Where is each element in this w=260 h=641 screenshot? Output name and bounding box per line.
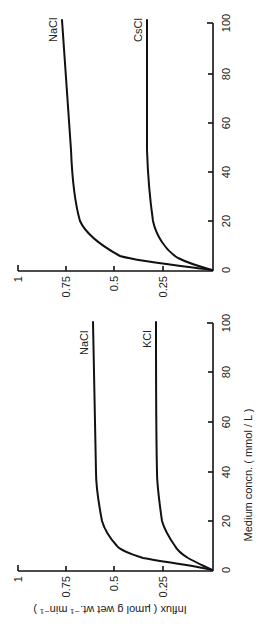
conc-ticks-top bbox=[207, 23, 213, 221]
curve-nacl-top bbox=[62, 20, 212, 270]
svg-text:20: 20 bbox=[220, 515, 232, 527]
svg-text:0.75: 0.75 bbox=[60, 576, 72, 597]
svg-text:20: 20 bbox=[220, 215, 232, 227]
influx-tick-labels-bottom: 1 0.75 0.5 0.25 bbox=[12, 576, 169, 597]
svg-text:0.5: 0.5 bbox=[108, 276, 120, 291]
svg-text:0: 0 bbox=[220, 267, 232, 273]
conc-ticks-bottom bbox=[207, 323, 213, 521]
svg-text:0.25: 0.25 bbox=[157, 276, 169, 297]
influx-ticks-top bbox=[18, 265, 163, 271]
svg-text:100: 100 bbox=[220, 14, 232, 32]
svg-text:1: 1 bbox=[12, 276, 24, 282]
influx-axis-title: Influx ( µmol g wet wt.⁻¹ min⁻¹ ) bbox=[33, 604, 186, 616]
conc-tick-labels-top: 0 20 40 60 80 100 bbox=[220, 14, 232, 273]
conc-axis-title: Medium concn. ( mmol / L ) bbox=[242, 409, 254, 542]
svg-text:80: 80 bbox=[220, 68, 232, 80]
svg-text:0.75: 0.75 bbox=[60, 276, 72, 297]
label-cscl-top: CsCl bbox=[132, 18, 144, 42]
svg-text:60: 60 bbox=[220, 416, 232, 428]
influx-ticks-bottom bbox=[18, 565, 163, 571]
label-kcl-bottom: KCl bbox=[141, 330, 153, 348]
svg-text:40: 40 bbox=[220, 166, 232, 178]
rotated-figure: 1 0.75 0.5 0.25 0 20 40 60 80 100 NaCl C… bbox=[0, 0, 260, 641]
curve-nacl-bottom bbox=[93, 322, 212, 570]
conc-tick-labels-bottom: 0 20 40 60 80 100 bbox=[220, 314, 232, 573]
influx-tick-labels-top: 1 0.75 0.5 0.25 bbox=[12, 276, 169, 297]
curve-cscl-top bbox=[147, 20, 212, 270]
label-nacl-bottom: NaCl bbox=[78, 331, 90, 355]
svg-text:0.25: 0.25 bbox=[157, 576, 169, 597]
svg-text:0: 0 bbox=[220, 567, 232, 573]
svg-text:0.5: 0.5 bbox=[108, 576, 120, 591]
svg-text:80: 80 bbox=[220, 366, 232, 378]
label-nacl-top: NaCl bbox=[47, 18, 59, 42]
svg-text:60: 60 bbox=[220, 117, 232, 129]
svg-text:100: 100 bbox=[220, 314, 232, 332]
svg-text:40: 40 bbox=[220, 466, 232, 478]
svg-text:1: 1 bbox=[12, 576, 24, 582]
curve-kcl-bottom bbox=[156, 322, 212, 570]
panel-top: 1 0.75 0.5 0.25 0 20 40 60 80 100 NaCl C… bbox=[12, 14, 232, 298]
panel-bottom: 1 0.75 0.5 0.25 0 20 40 60 80 100 NaCl K… bbox=[12, 314, 232, 598]
